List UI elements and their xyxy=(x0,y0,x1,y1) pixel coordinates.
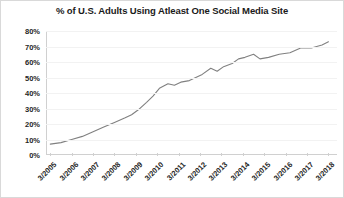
x-tick-mark xyxy=(72,153,73,156)
x-tick-mark xyxy=(200,153,201,156)
x-tick-mark xyxy=(136,153,137,156)
y-tick-label: 60% xyxy=(25,58,40,67)
y-axis: 0%10%20%30%40%50%60%70%80% xyxy=(1,31,43,155)
x-tick-mark xyxy=(243,153,244,156)
y-tick-label: 70% xyxy=(25,42,40,51)
y-tick-label: 20% xyxy=(25,120,40,129)
gridline xyxy=(46,93,337,94)
y-tick-label: 30% xyxy=(25,104,40,113)
x-tick-mark xyxy=(114,153,115,156)
x-tick-mark xyxy=(286,153,287,156)
gridline xyxy=(46,109,337,110)
chart-figure: % of U.S. Adults Using Atleast One Socia… xyxy=(0,0,344,198)
x-tick-mark xyxy=(307,153,308,156)
x-tick-mark xyxy=(157,153,158,156)
y-tick-label: 10% xyxy=(25,135,40,144)
x-tick-mark xyxy=(93,153,94,156)
gridline xyxy=(46,31,337,32)
plot-area xyxy=(46,31,337,155)
gridline xyxy=(46,47,337,48)
y-tick-label: 40% xyxy=(25,89,40,98)
x-tick-mark xyxy=(328,153,329,156)
x-tick-mark xyxy=(50,153,51,156)
x-tick-mark xyxy=(264,153,265,156)
x-tick-mark xyxy=(179,153,180,156)
gridline xyxy=(46,140,337,141)
gridline xyxy=(46,78,337,79)
gridline xyxy=(46,124,337,125)
y-tick-label: 80% xyxy=(25,27,40,36)
x-axis: 3/20053/20063/20073/20083/20093/20103/20… xyxy=(46,156,337,198)
y-tick-label: 0% xyxy=(29,151,40,160)
chart-title: % of U.S. Adults Using Atleast One Socia… xyxy=(1,5,343,16)
gridline xyxy=(46,62,337,63)
y-tick-label: 50% xyxy=(25,73,40,82)
x-tick-mark xyxy=(221,153,222,156)
